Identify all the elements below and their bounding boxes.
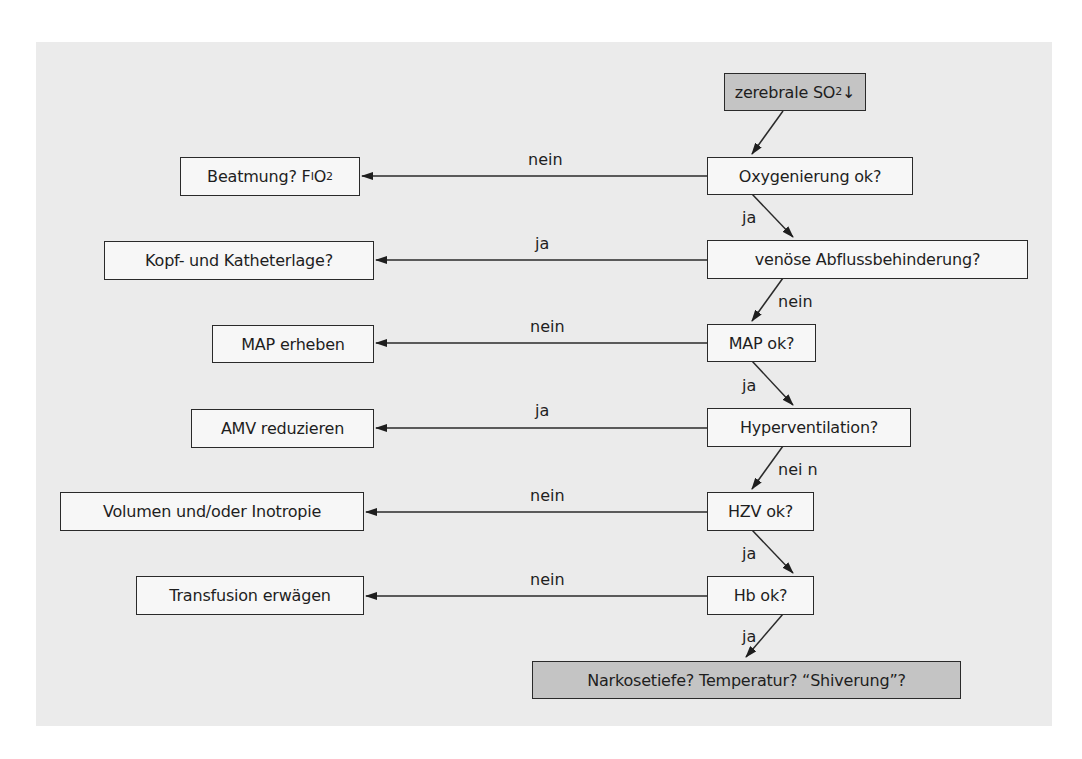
action-volumen-inotropie: Volumen und/oder Inotropie bbox=[60, 492, 364, 531]
edge-label-nein: nein bbox=[530, 570, 565, 589]
decision-label: MAP ok? bbox=[729, 334, 795, 353]
action-label: MAP erheben bbox=[241, 335, 345, 354]
down-arrow-icon: ↓ bbox=[842, 83, 855, 102]
action-amv-reduzieren: AMV reduzieren bbox=[191, 409, 374, 448]
start-label: zerebrale SO bbox=[735, 83, 836, 102]
edge-label-ja: ja bbox=[742, 208, 756, 227]
edge-label-ja: ja bbox=[742, 544, 756, 563]
decision-hzv: HZV ok? bbox=[707, 492, 814, 531]
edge-label-ja: ja bbox=[742, 376, 756, 395]
start-node-cerebral-so2: zerebrale SO2 ↓ bbox=[724, 73, 866, 111]
edge-label-nein: nei n bbox=[778, 460, 818, 479]
action-label: Kopf- und Katheterlage? bbox=[145, 251, 333, 270]
action-map-erheben: MAP erheben bbox=[212, 325, 374, 363]
edge-label-ja: ja bbox=[742, 627, 756, 646]
decision-label: Hyperventilation? bbox=[740, 418, 878, 437]
edge-label-nein: nein bbox=[528, 150, 563, 169]
decision-oxygenierung: Oxygenierung ok? bbox=[707, 157, 913, 195]
decision-hb: Hb ok? bbox=[707, 576, 814, 615]
end-node-narkosetiefe: Narkosetiefe? Temperatur? “Shiverung”? bbox=[532, 661, 961, 699]
decision-map: MAP ok? bbox=[707, 324, 816, 362]
decision-venoese-abflussbehinderung: venöse Abflussbehinderung? bbox=[707, 240, 1028, 279]
edge-label-ja: ja bbox=[535, 401, 549, 420]
action-kopf-katheterlage: Kopf- und Katheterlage? bbox=[104, 241, 374, 280]
decision-hyperventilation: Hyperventilation? bbox=[707, 408, 911, 447]
action-label: Transfusion erwägen bbox=[169, 586, 331, 605]
action-label: Beatmung? F bbox=[207, 167, 311, 186]
decision-label: venöse Abflussbehinderung? bbox=[755, 250, 981, 269]
end-label: Narkosetiefe? Temperatur? “Shiverung”? bbox=[587, 671, 906, 690]
edge-label-nein: nein bbox=[530, 486, 565, 505]
edge-label-nein: nein bbox=[778, 292, 813, 311]
decision-label: HZV ok? bbox=[728, 502, 793, 521]
action-label: AMV reduzieren bbox=[221, 419, 344, 438]
edge-label-nein: nein bbox=[530, 317, 565, 336]
edge-label-ja: ja bbox=[535, 234, 549, 253]
action-beatmung-fio2: Beatmung? FIO2 bbox=[180, 157, 360, 196]
action-label: Volumen und/oder Inotropie bbox=[103, 502, 321, 521]
connector-arrows bbox=[0, 0, 1082, 759]
action-label-suffix: O bbox=[314, 167, 326, 186]
decision-label: Oxygenierung ok? bbox=[739, 167, 881, 186]
decision-label: Hb ok? bbox=[734, 586, 788, 605]
action-transfusion: Transfusion erwägen bbox=[136, 576, 364, 615]
